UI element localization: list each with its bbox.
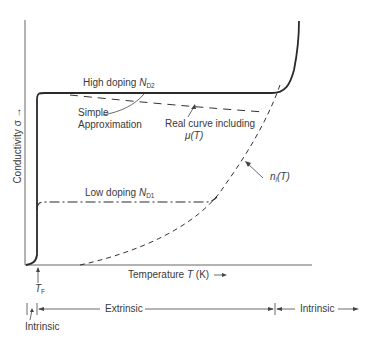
simple-approx-leader <box>103 94 144 115</box>
intrinsic-high-left-arrow-icon <box>276 307 282 311</box>
high-doping-sub: D2 <box>146 82 154 89</box>
intrinsic-high-right-arrow-icon <box>353 307 359 311</box>
tf-label: TF <box>35 284 45 296</box>
intrinsic-low-arrow-icon <box>30 308 34 312</box>
x-axis-label-text: Temperature <box>128 269 184 280</box>
x-axis-unit: (K) <box>196 269 209 280</box>
x-axis-symbol: T <box>187 269 193 280</box>
ni-arg: (T) <box>277 171 290 182</box>
region-extrinsic: Extrinsic <box>105 304 143 314</box>
high-doping-text: High doping <box>83 77 136 88</box>
extrinsic-left-arrow-icon <box>38 307 44 311</box>
simple-approx-label-line1: Simple <box>78 108 109 118</box>
real-curve-label-line1: Real curve including <box>165 119 255 129</box>
low-doping-label: Low doping ND1 <box>85 188 154 200</box>
region-intrinsic-high: Intrinsic <box>300 304 334 314</box>
ni-curve-dashed <box>80 82 281 265</box>
tf-sub: F <box>41 288 45 295</box>
conductivity-diagram <box>0 0 374 342</box>
y-axis-arrow-icon: → <box>12 107 23 117</box>
high-doping-curve <box>26 21 299 265</box>
high-doping-label: High doping ND2 <box>83 78 155 90</box>
simple-approx-label-line2: Approximation <box>78 120 142 130</box>
low-doping-sub: D1 <box>146 192 154 199</box>
low-doping-text: Low doping <box>85 187 136 198</box>
ni-leader <box>247 163 263 178</box>
region-intrinsic-low: Intrinsic <box>25 322 59 332</box>
ni-label: ni(T) <box>270 172 290 184</box>
x-axis-label: Temperature T (K) <box>128 270 209 280</box>
tf-arrow-icon <box>36 267 40 272</box>
extrinsic-right-arrow-icon <box>268 307 274 311</box>
x-axis-label-arrow-icon <box>222 273 227 277</box>
real-curve-arrow-icon <box>191 104 196 109</box>
y-axis-label: Conductivity σ → <box>12 101 23 191</box>
real-curve-label-line2: μ(T) <box>185 131 203 141</box>
y-axis-label-text: Conductivity σ <box>12 120 23 183</box>
